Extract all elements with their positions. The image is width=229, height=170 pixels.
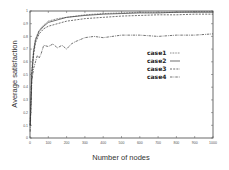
y-tick-label: 1 [26,9,28,13]
plot-area [30,11,213,138]
y-axis-label: Average satisfaction [10,40,19,107]
y-tick-label: 0.5 [23,73,28,77]
y-tick-label: 0.9 [23,22,28,26]
x-tick-label: 500 [119,141,125,145]
y-tick-label: 0.4 [23,85,28,89]
x-tick-label: 0 [29,141,31,145]
y-tick-label: 0.7 [23,47,28,51]
x-tick-label: 300 [82,141,88,145]
x-tick-label: 200 [64,141,70,145]
x-tick-label: 400 [100,141,106,145]
y-tick-label: 0.8 [23,35,28,39]
y-tick-label: 0.2 [23,111,28,115]
x-axis-label: Number of nodes [92,153,150,162]
x-tick-label: 600 [137,141,143,145]
y-tick-label: 0.6 [23,60,28,64]
legend-label-case2: case2 [147,57,166,64]
x-tick-label: 100 [45,141,51,145]
x-tick-label: 900 [192,141,198,145]
legend-label-case1: case1 [147,49,166,56]
plot-frame [30,11,213,138]
y-tick-label: 0.3 [23,98,28,102]
x-tick-label: 700 [155,141,161,145]
y-tick-label: 0.1 [23,124,28,128]
legend-label-case4: case4 [147,73,166,80]
x-tick-label: 1000 [209,141,217,145]
line-chart: 0100200300400500600700800900100000.10.20… [0,0,229,170]
x-tick-label: 800 [173,141,179,145]
y-tick-label: 0 [26,136,28,140]
legend-label-case3: case3 [147,65,166,72]
